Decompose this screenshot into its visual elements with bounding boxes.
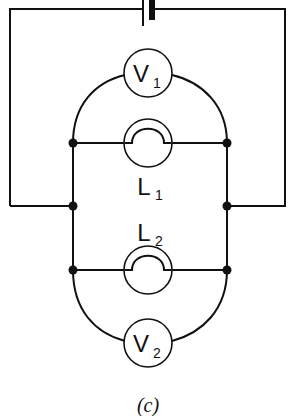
l2-letter: L — [137, 219, 150, 246]
v1-letter: V — [133, 60, 149, 87]
figure-caption: (c) — [137, 394, 160, 416]
v2-subscript: 2 — [153, 345, 161, 361]
v1-arc-left — [73, 75, 125, 143]
lamp-2: L 2 — [124, 219, 172, 294]
circuit-diagram: V 1 L 1 L 2 V 2 (c) — [0, 0, 291, 416]
l1-subscript: 1 — [155, 187, 163, 203]
l1-letter: L — [137, 173, 150, 200]
v2-arc-left — [73, 270, 125, 341]
voltmeter-1: V 1 — [124, 49, 172, 97]
l2-subscript: 2 — [155, 233, 163, 249]
v2-letter: V — [133, 330, 149, 357]
v1-subscript: 1 — [153, 75, 161, 91]
lamp-1: L 1 — [124, 119, 172, 203]
voltmeter-2: V 2 — [124, 319, 172, 367]
junction-dot — [69, 266, 78, 275]
v1-arc-right — [172, 75, 227, 143]
junction-dot — [223, 202, 232, 211]
battery-icon — [143, 0, 155, 26]
junction-dot — [223, 139, 232, 148]
junction-dot — [223, 266, 232, 275]
junction-dot — [69, 202, 78, 211]
wire-top-left — [10, 9, 143, 206]
v2-arc-right — [172, 270, 227, 341]
junction-dot — [69, 139, 78, 148]
